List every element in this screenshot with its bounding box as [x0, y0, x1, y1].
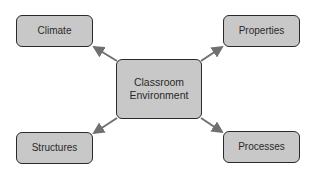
- node-label: Processes: [238, 141, 285, 153]
- arrow-to-structures: [94, 118, 117, 133]
- node-structures: Structures: [16, 132, 93, 164]
- node-label: Structures: [32, 142, 78, 154]
- node-label: Climate: [38, 25, 72, 37]
- node-properties: Properties: [223, 15, 300, 47]
- node-classroom-environment: Classroom Environment: [116, 59, 202, 119]
- node-climate: Climate: [16, 15, 93, 47]
- arrow-to-processes: [201, 118, 222, 132]
- node-processes: Processes: [223, 131, 300, 163]
- center-label-line2: Environment: [130, 89, 189, 102]
- arrow-to-climate: [94, 47, 117, 61]
- arrow-to-properties: [201, 47, 222, 61]
- center-label-line1: Classroom: [134, 76, 184, 89]
- node-label: Properties: [239, 25, 285, 37]
